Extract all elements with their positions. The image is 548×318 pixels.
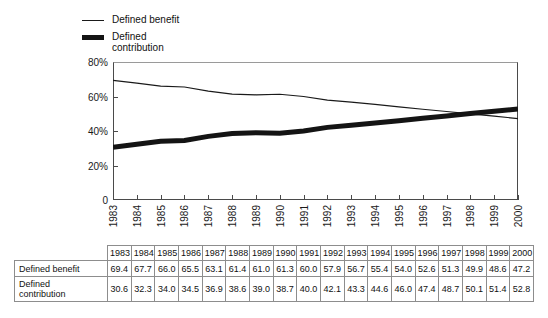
table-cell: 55.4 (368, 261, 392, 277)
table-cell: 42.1 (320, 277, 344, 302)
table-column-header: 1996 (415, 246, 439, 261)
line-chart: 020%40%60%80% 19831984198519861987198819… (113, 62, 518, 200)
table-row-label: Defined benefit (15, 261, 108, 277)
table-cell: 47.2 (510, 261, 534, 277)
data-table-container: 1983198419851986198719881989199019911992… (14, 245, 534, 302)
table-cell: 52.6 (415, 261, 439, 277)
table-cell: 39.0 (249, 277, 273, 302)
table-cell: 56.7 (344, 261, 368, 277)
x-axis-tick (351, 195, 352, 200)
table-cell: 50.1 (462, 277, 486, 302)
legend-thin-line-icon (82, 14, 112, 27)
x-axis-tick (256, 195, 257, 200)
table-column-header: 1990 (273, 246, 297, 261)
x-axis-tick (137, 195, 138, 200)
table-cell: 48.6 (486, 261, 510, 277)
table-column-header: 1987 (202, 246, 226, 261)
series-defined-contribution (113, 109, 518, 147)
table-corner-cell (15, 246, 108, 261)
x-axis-tick (161, 195, 162, 200)
table-column-header: 2000 (510, 246, 534, 261)
table-cell: 32.3 (131, 277, 155, 302)
table-column-header: 1991 (297, 246, 321, 261)
table-column-header: 1997 (439, 246, 463, 261)
table-cell: 36.9 (202, 277, 226, 302)
table-cell: 48.7 (439, 277, 463, 302)
legend-item-defined-benefit: Defined benefit (82, 14, 342, 27)
x-axis-label: 2000 (513, 205, 524, 227)
table-cell: 30.6 (108, 277, 132, 302)
x-axis-label: 1995 (394, 205, 405, 227)
y-axis-tick (113, 131, 118, 132)
y-axis-label: 40% (88, 126, 108, 137)
table-column-header: 1985 (155, 246, 179, 261)
x-axis-label: 1992 (322, 205, 333, 227)
table-cell: 57.9 (320, 261, 344, 277)
x-axis-label: 1986 (179, 205, 190, 227)
table-cell: 47.4 (415, 277, 439, 302)
legend-item-defined-contribution: Defined contribution (82, 31, 342, 53)
y-axis-tick (113, 97, 118, 98)
table-column-header: 1994 (368, 246, 392, 261)
table-cell: 49.9 (462, 261, 486, 277)
x-axis-tick (184, 195, 185, 200)
table-cell: 61.4 (226, 261, 250, 277)
table-cell: 54.0 (391, 261, 415, 277)
x-axis-tick (375, 195, 376, 200)
table-column-header: 1992 (320, 246, 344, 261)
y-axis-tick (113, 166, 118, 167)
table-column-header: 1986 (178, 246, 202, 261)
x-axis-tick (494, 195, 495, 200)
table-cell: 66.0 (155, 261, 179, 277)
x-axis-tick (423, 195, 424, 200)
x-axis-label: 1988 (227, 205, 238, 227)
x-axis-tick (208, 195, 209, 200)
table-cell: 38.7 (273, 277, 297, 302)
legend-thick-line-icon (82, 31, 112, 44)
x-axis-tick (470, 195, 471, 200)
table-cell: 61.0 (249, 261, 273, 277)
table-column-header: 1999 (486, 246, 510, 261)
table-cell: 51.4 (486, 277, 510, 302)
x-axis-label: 1990 (275, 205, 286, 227)
x-axis-tick (304, 195, 305, 200)
x-axis-label: 1993 (346, 205, 357, 227)
table-row: Defined benefit69.467.766.065.563.161.46… (15, 261, 534, 277)
legend-item-label: Defined benefit (112, 14, 179, 25)
table-column-header: 1998 (462, 246, 486, 261)
table-column-header: 1988 (226, 246, 250, 261)
table-cell: 67.7 (131, 261, 155, 277)
x-axis-label: 1987 (203, 205, 214, 227)
table-cell: 51.3 (439, 261, 463, 277)
table-row-label: Definedcontribution (15, 277, 108, 302)
x-axis-tick (327, 195, 328, 200)
y-axis-label: 20% (88, 160, 108, 171)
x-axis-tick (113, 195, 114, 200)
x-axis-tick (447, 195, 448, 200)
x-axis-label: 1996 (418, 205, 429, 227)
x-axis-tick (280, 195, 281, 200)
x-axis-tick (232, 195, 233, 200)
table-column-header: 1989 (249, 246, 273, 261)
table-cell: 61.3 (273, 261, 297, 277)
x-axis-label: 1991 (299, 205, 310, 227)
legend-item-label: Defined contribution (112, 31, 164, 53)
x-axis-label: 1989 (251, 205, 262, 227)
table-cell: 52.8 (510, 277, 534, 302)
table-cell: 46.0 (391, 277, 415, 302)
table-row: Definedcontribution30.632.334.034.536.93… (15, 277, 534, 302)
x-axis-label: 1997 (442, 205, 453, 227)
y-axis-label: 0 (102, 195, 108, 206)
table-cell: 63.1 (202, 261, 226, 277)
table-cell: 34.5 (178, 277, 202, 302)
x-axis-label: 1999 (489, 205, 500, 227)
data-table: 1983198419851986198719881989199019911992… (14, 245, 534, 302)
table-cell: 69.4 (108, 261, 132, 277)
x-axis-label: 1994 (370, 205, 381, 227)
table-cell: 34.0 (155, 277, 179, 302)
x-axis-label: 1998 (465, 205, 476, 227)
table-column-header: 1995 (391, 246, 415, 261)
table-header-row: 1983198419851986198719881989199019911992… (15, 246, 534, 261)
table-column-header: 1983 (108, 246, 132, 261)
table-cell: 43.3 (344, 277, 368, 302)
